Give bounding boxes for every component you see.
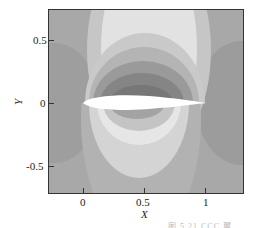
x-tick-label: 0 xyxy=(80,197,86,208)
y-axis-label: Y xyxy=(12,99,24,105)
y-tick-label: -0.5 xyxy=(26,161,43,172)
y-tick xyxy=(49,166,54,167)
contour-field xyxy=(49,10,243,193)
x-tick-label: 1 xyxy=(203,197,209,208)
x-tick-label: 0.5 xyxy=(136,197,150,208)
x-tick xyxy=(144,188,145,193)
x-tick xyxy=(205,188,206,193)
y-tick xyxy=(49,103,54,104)
contour-plot-area xyxy=(49,10,243,193)
y-tick xyxy=(49,40,54,41)
x-tick xyxy=(83,188,84,193)
y-tick-label: 0 xyxy=(40,98,46,109)
y-tick-label: 0.5 xyxy=(33,35,47,46)
figure-caption: 图 5.21 CCC 翼 xyxy=(168,220,232,228)
x-axis-label: X xyxy=(141,208,148,220)
